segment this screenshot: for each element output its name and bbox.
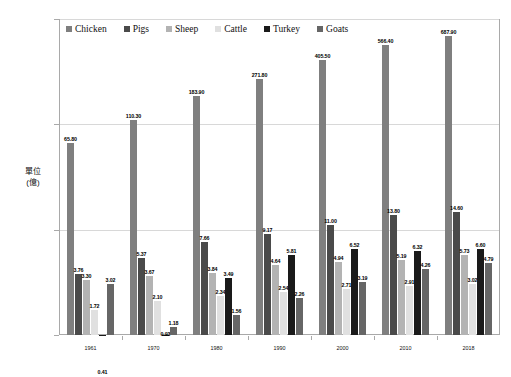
bar-value-label: 14.60 [450,205,463,211]
bar-value-label: 3.84 [208,266,218,272]
legend-item-chicken[interactable]: Chicken [66,24,107,34]
bar-cattle-1990[interactable] [280,292,287,335]
x-axis-tick-mark [374,336,375,340]
bar-value-label: 3.19 [358,275,368,281]
bar-value-label: 9.17 [263,227,273,233]
bar-value-label: 566.40 [378,38,394,44]
legend-item-turkey[interactable]: Turkey [264,24,300,34]
bar-goats-2000[interactable] [359,282,366,335]
bar-sheep-1970[interactable] [146,276,153,335]
bar-value-label: 6.32 [413,244,423,250]
legend-swatch-icon [124,26,130,32]
bar-cattle-2018[interactable] [469,284,476,335]
legend-label: Turkey [273,24,300,34]
bar-value-label: 3.49 [224,271,234,277]
x-axis-tick-label: 2000 [337,345,349,351]
bar-value-label: 13.80 [387,208,400,214]
bars-layer: 65.803.763.301.720.413.02110.305.373.672… [59,19,500,335]
y-axis-title-line1: 單位 [10,166,56,177]
bar-chicken-1961[interactable] [67,143,74,335]
bar-pigs-2000[interactable] [327,225,334,335]
bar-sheep-1990[interactable] [272,265,279,335]
bar-pigs-1980[interactable] [201,242,208,335]
bar-goats-2010[interactable] [422,269,429,335]
bar-chicken-1990[interactable] [256,79,263,335]
bar-goats-1970[interactable] [170,327,177,335]
bar-turkey-1980[interactable] [225,278,232,335]
bar-sheep-2000[interactable] [335,262,342,335]
bar-chicken-2010[interactable] [382,45,389,335]
x-axis: 1961197019801990200020102018 [59,336,500,358]
chart-legend: ChickenPigsSheepCattleTurkeyGoats [66,24,348,34]
bar-value-label: 11.00 [324,218,336,224]
legend-label: Pigs [133,24,149,34]
bar-cattle-1970[interactable] [154,301,161,335]
bar-chicken-2018[interactable] [445,36,452,335]
bar-value-label: 3.30 [82,273,92,279]
bar-chicken-1980[interactable] [193,96,200,335]
bar-sheep-1980[interactable] [209,273,216,335]
bar-value-label: 110.30 [126,113,141,119]
bar-cattle-1961[interactable] [91,310,98,335]
x-axis-tick-mark [185,336,186,340]
bar-value-label: 5.81 [287,248,297,254]
bar-pigs-1990[interactable] [264,234,271,335]
bar-pigs-2010[interactable] [390,215,397,335]
bar-value-label: 2.10 [153,294,163,300]
legend-swatch-icon [215,26,221,32]
bar-value-label: 1.56 [232,308,242,314]
bar-sheep-2010[interactable] [398,260,405,335]
bar-goats-1990[interactable] [296,298,303,335]
legend-label: Cattle [224,24,247,34]
bar-pigs-1961[interactable] [75,274,82,335]
bar-chart: 單位 (億) 1.0010.00100.001,000.00 65.803.76… [0,0,511,377]
bar-value-label: 0.41 [98,369,108,375]
bar-turkey-2000[interactable] [351,249,358,335]
x-axis-tick-label: 1980 [211,345,223,351]
legend-item-goats[interactable]: Goats [317,24,348,34]
bar-value-label: 5.19 [397,253,407,259]
bar-cattle-2000[interactable] [343,289,350,335]
bar-value-label: 271.80 [252,72,268,78]
bar-value-label: 6.52 [350,242,360,248]
legend-item-sheep[interactable]: Sheep [166,24,198,34]
bar-value-label: 6.60 [476,242,486,248]
bar-cattle-1980[interactable] [217,296,224,335]
bar-value-label: 2.26 [295,291,305,297]
legend-swatch-icon [264,26,270,32]
bar-goats-1980[interactable] [233,315,240,335]
bar-value-label: 5.37 [137,251,147,257]
bar-chicken-2000[interactable] [319,60,326,335]
legend-item-cattle[interactable]: Cattle [215,24,247,34]
bar-value-label: 405.50 [315,53,331,59]
bar-pigs-2018[interactable] [453,212,460,335]
y-axis-title: 單位 (億) [10,166,56,188]
bar-value-label: 183.90 [189,89,205,95]
x-axis-tick-mark [437,336,438,340]
bar-value-label: 1.72 [90,303,100,309]
bar-value-label: 4.64 [271,258,281,264]
legend-swatch-icon [317,26,323,32]
bar-cattle-2010[interactable] [406,286,413,335]
bar-value-label: 5.73 [460,248,470,254]
bar-value-label: 4.79 [484,256,494,262]
x-axis-tick-label: 1970 [148,345,160,351]
x-axis-tick-mark [122,336,123,340]
bar-value-label: 687.90 [441,29,457,35]
y-axis-title-line2: (億) [10,177,56,188]
bar-turkey-1961[interactable] [99,335,106,336]
legend-swatch-icon [166,26,172,32]
y-axis: 單位 (億) 1.0010.00100.001,000.00 [0,0,59,340]
bar-value-label: 3.02 [106,277,116,283]
bar-value-label: 65.80 [64,136,77,142]
bar-chicken-1970[interactable] [130,120,137,335]
bar-value-label: 4.94 [334,255,344,261]
bar-sheep-2018[interactable] [461,255,468,335]
legend-item-pigs[interactable]: Pigs [124,24,149,34]
bar-goats-1961[interactable] [107,284,114,335]
bar-value-label: 1.18 [169,320,179,326]
x-axis-tick-mark [311,336,312,340]
x-axis-tick-label: 1990 [274,345,286,351]
bar-goats-2018[interactable] [485,263,492,335]
bar-value-label: 3.67 [145,269,155,275]
